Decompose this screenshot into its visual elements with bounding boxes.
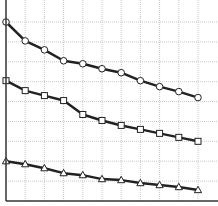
square-marker: [118, 122, 124, 128]
circle-marker: [156, 83, 163, 90]
circle-marker: [176, 88, 183, 95]
square-marker: [99, 117, 105, 123]
circle-marker: [99, 65, 106, 72]
circle-marker: [41, 47, 48, 54]
circle-marker: [80, 60, 87, 67]
square-marker: [80, 111, 86, 117]
circle-marker: [22, 38, 29, 45]
square-marker: [176, 134, 182, 140]
circle-marker: [60, 57, 67, 64]
square-marker: [22, 88, 28, 94]
square-marker: [41, 93, 47, 99]
square-marker: [61, 98, 67, 104]
square-marker: [195, 138, 201, 144]
circle-marker: [137, 77, 144, 84]
square-marker: [157, 130, 163, 136]
circle-marker: [118, 69, 125, 76]
circle-marker: [195, 94, 202, 101]
square-marker: [137, 126, 143, 132]
line-chart: [0, 0, 218, 206]
axes: [6, 0, 218, 201]
grid-lines: [6, 0, 218, 201]
